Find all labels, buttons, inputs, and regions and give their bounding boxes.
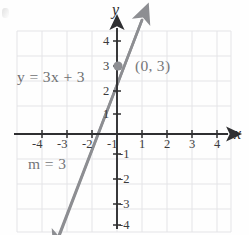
x-tick-label--4: -4 xyxy=(32,138,42,151)
x-tick-label-3: 3 xyxy=(189,138,195,151)
plotted-line xyxy=(59,20,142,235)
x-tick-label--3: -3 xyxy=(57,138,67,151)
x-axis-label: x xyxy=(234,126,241,142)
y-tick-label--1: -1 xyxy=(119,148,129,161)
y-tick-label-4: 4 xyxy=(103,35,109,48)
line-graph-figure: y x -4 -3 -2 -1 1 2 3 4 4 3 2 1 -1 -2 -3… xyxy=(0,0,249,235)
x-axis xyxy=(14,130,228,138)
slope-annotation: m = 3 xyxy=(28,156,66,172)
equation-annotation: y = 3x + 3 xyxy=(17,69,85,85)
y-tick-label--3: -3 xyxy=(119,198,129,211)
y-tick-label--2: -2 xyxy=(119,173,129,186)
x-tick-label-2: 2 xyxy=(164,138,170,151)
x-tick-label--1: -1 xyxy=(107,138,117,151)
y-axis-label: y xyxy=(112,2,119,18)
y-intercept-point-marker xyxy=(113,61,122,70)
y-tick-label--4: -4 xyxy=(119,219,129,232)
x-tick-label--2: -2 xyxy=(82,138,92,151)
x-tick-label-1: 1 xyxy=(139,138,145,151)
y-tick-label-2: 2 xyxy=(103,85,109,98)
x-tick-label-4: 4 xyxy=(214,138,220,151)
y-tick-label-1: 1 xyxy=(103,108,109,121)
point-annotation: (0, 3) xyxy=(135,58,170,74)
y-tick-label-3: 3 xyxy=(103,60,109,73)
